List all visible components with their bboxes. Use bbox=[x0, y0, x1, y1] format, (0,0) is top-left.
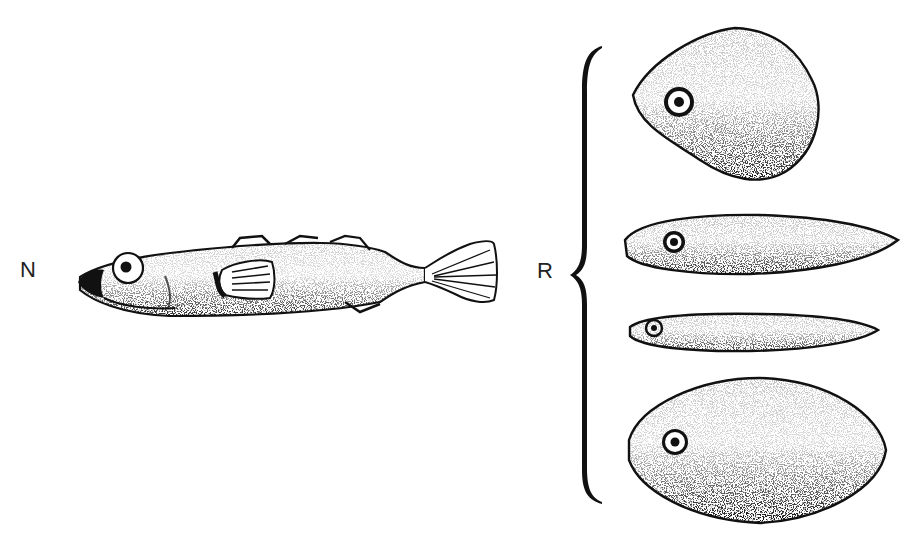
fish-eye bbox=[113, 253, 143, 283]
fish-normal bbox=[70, 235, 497, 325]
r-shape-eye bbox=[662, 429, 688, 455]
r-shape-eye bbox=[663, 231, 685, 253]
curly-brace bbox=[570, 46, 602, 504]
r-shape-thin-spindle bbox=[625, 308, 885, 358]
illustration-canvas bbox=[0, 0, 918, 545]
r-shape-rhomboid bbox=[625, 25, 830, 190]
label-normal: N bbox=[20, 257, 36, 283]
tail-fin bbox=[425, 241, 497, 302]
r-shape-spindle bbox=[620, 210, 905, 280]
r-shape-eye bbox=[664, 87, 694, 117]
r-shape-oval bbox=[625, 375, 890, 527]
label-r-group: R bbox=[537, 258, 553, 284]
